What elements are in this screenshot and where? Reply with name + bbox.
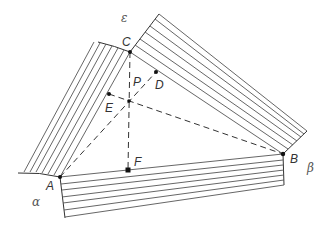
point-P bbox=[127, 99, 131, 103]
label-E: E bbox=[105, 101, 114, 115]
point-E bbox=[107, 92, 111, 96]
line-C-F bbox=[128, 52, 130, 170]
point-F bbox=[126, 168, 131, 173]
point-A bbox=[58, 175, 62, 179]
label-alpha: α bbox=[32, 195, 40, 209]
left-wall-hatching bbox=[18, 42, 130, 177]
label-B: B bbox=[290, 152, 298, 166]
label-P: P bbox=[133, 75, 141, 89]
label-beta: β bbox=[306, 161, 314, 175]
label-C: C bbox=[122, 35, 131, 49]
line-E-B bbox=[109, 94, 283, 154]
point-C bbox=[128, 50, 132, 54]
label-A: A bbox=[45, 179, 54, 193]
line-A-D bbox=[60, 72, 156, 177]
triangle-diagram: C P D E F A B ε α β bbox=[0, 0, 332, 227]
bottom-wall-hatching bbox=[60, 154, 284, 218]
label-epsilon: ε bbox=[121, 11, 127, 25]
point-B bbox=[281, 152, 285, 156]
label-D: D bbox=[155, 78, 164, 92]
region-labels: ε α β bbox=[32, 11, 314, 209]
label-F: F bbox=[134, 155, 142, 169]
point-D bbox=[154, 70, 158, 74]
